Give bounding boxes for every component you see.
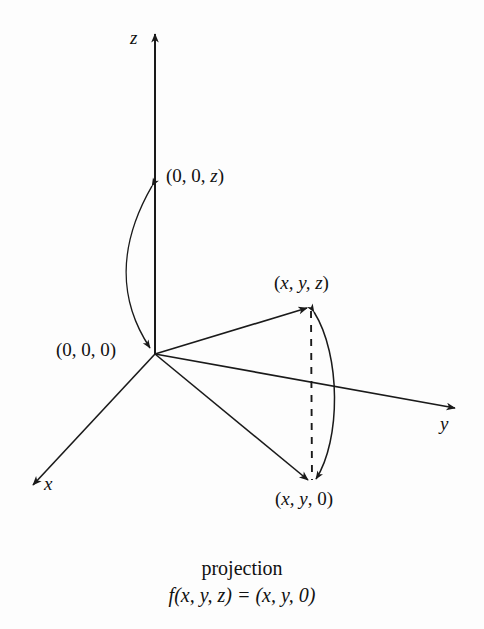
z-point-prefix: (0, 0, bbox=[166, 165, 210, 186]
figure-container: z y x (0, 0, z) (0, 0, 0) (x, y, z) (x, … bbox=[0, 0, 484, 629]
diagram-canvas bbox=[0, 0, 484, 629]
source-point-label: (x, y, z) bbox=[274, 273, 329, 292]
z-point-variable: z bbox=[210, 165, 217, 186]
z-point-suffix: ) bbox=[218, 165, 224, 186]
caption-formula: f(x, y, z) = (x, y, 0) bbox=[0, 583, 484, 608]
z-axis-label: z bbox=[130, 28, 137, 47]
arc-z-to-origin bbox=[126, 186, 152, 348]
dashed-drop-line bbox=[311, 311, 312, 480]
projected-point-label: (x, y, 0) bbox=[275, 489, 333, 508]
xyz-suffix: ) bbox=[323, 272, 329, 293]
caption-title: projection bbox=[0, 556, 484, 581]
y-axis-label: y bbox=[440, 414, 448, 433]
vector-to-xy0 bbox=[155, 354, 308, 480]
xy0-variables: x, y bbox=[281, 488, 307, 509]
x-axis-label: x bbox=[44, 474, 52, 493]
x-axis-line bbox=[33, 354, 155, 485]
xy0-suffix: , 0) bbox=[308, 488, 333, 509]
origin-point-label: (0, 0, 0) bbox=[56, 340, 116, 359]
xyz-variables: x, y, z bbox=[280, 272, 322, 293]
vector-to-xyz bbox=[155, 308, 307, 354]
y-axis-line bbox=[155, 354, 455, 408]
caption-formula-text: f(x, y, z) = (x, y, 0) bbox=[169, 584, 316, 606]
z-axis-point-label: (0, 0, z) bbox=[166, 166, 224, 185]
arc-xyz-to-xy0 bbox=[314, 312, 335, 479]
